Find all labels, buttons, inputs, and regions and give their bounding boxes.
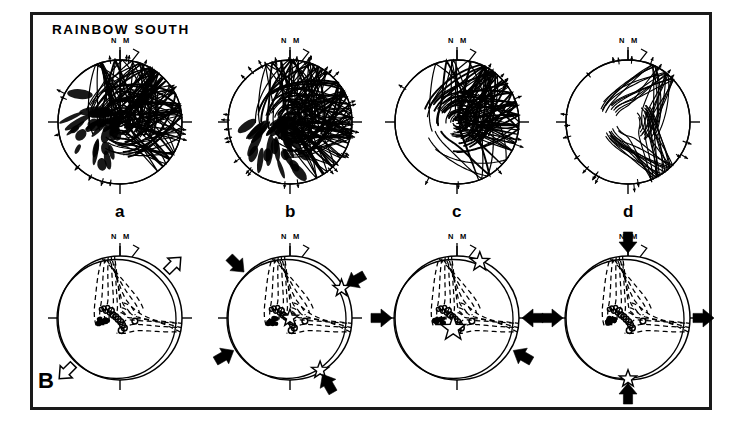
sublabel-d: d: [623, 202, 633, 222]
orientation-label-top-c: N M: [448, 36, 468, 45]
orientation-label-top-d: N M: [619, 36, 639, 45]
orientation-label-top-b: N M: [281, 36, 301, 45]
orientation-label-top-a: N M: [111, 36, 131, 45]
orientation-label-bot-d: N M: [619, 232, 639, 241]
figure-frame: [30, 12, 712, 410]
figure-root: RAINBOW SOUTH B N M N M N M N M N M N M …: [0, 0, 740, 428]
sublabel-c: c: [452, 202, 461, 222]
orientation-label-bot-b: N M: [281, 232, 301, 241]
sublabel-a: a: [115, 202, 124, 222]
orientation-label-bot-c: N M: [448, 232, 468, 241]
orientation-label-bot-a: N M: [111, 232, 131, 241]
panel-label-B: B: [38, 368, 54, 394]
page-title: RAINBOW SOUTH: [52, 22, 190, 37]
sublabel-b: b: [285, 202, 295, 222]
